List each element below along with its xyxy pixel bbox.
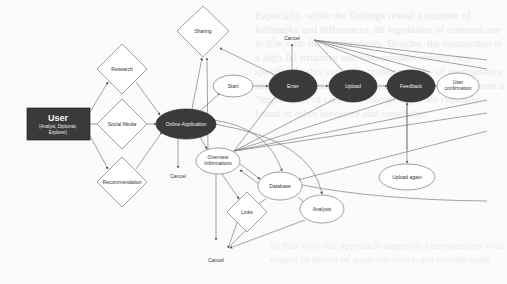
online-application-label: Online-Application	[166, 121, 207, 127]
process-database[interactable]: Database	[258, 172, 302, 200]
decision-links[interactable]: Links	[227, 192, 267, 232]
process-upload[interactable]: Upload	[329, 70, 377, 102]
cancel-mid-label: Cancel	[170, 173, 186, 179]
process-upload-again[interactable]: Upload again	[379, 164, 435, 190]
process-feedback[interactable]: Feedback	[387, 70, 435, 102]
links-label: Links	[241, 209, 253, 215]
user-subtitle-1: (Analyst, Diplomat,	[39, 124, 77, 129]
user-subtitle-2: Explorer)	[49, 130, 68, 135]
enter-label: Enter	[287, 83, 299, 89]
cancel-bottom-label: Cancel	[208, 257, 224, 263]
analysis-label: Analysis	[313, 206, 332, 212]
user-title: User	[48, 113, 69, 123]
upload-label: Upload	[345, 83, 361, 89]
decision-sharing[interactable]: Sharing	[177, 6, 229, 57]
overview-label-2: Informations	[204, 160, 232, 166]
sharing-label: Sharing	[194, 28, 211, 34]
process-online-application[interactable]: Online-Application	[156, 109, 216, 139]
process-user-confirmation[interactable]: User confirmation	[437, 73, 479, 99]
feedback-label: Feedback	[400, 83, 422, 89]
start-label: Start	[228, 83, 239, 89]
terminal-cancel-bottom[interactable]: Cancel	[208, 257, 224, 263]
process-start[interactable]: Start	[213, 75, 253, 97]
terminal-cancel-mid[interactable]: Cancel	[170, 173, 186, 179]
research-label: Research	[111, 66, 133, 72]
recommendation-label: Recommendation	[102, 179, 141, 185]
process-analysis[interactable]: Analysis	[300, 195, 344, 223]
flow-diagram: User (Analyst, Diplomat, Explorer) Resea…	[0, 0, 507, 284]
upload-again-label: Upload again	[392, 174, 422, 180]
process-enter[interactable]: Enter	[269, 70, 317, 102]
process-overview-informations[interactable]: Overview Informations	[196, 148, 240, 174]
social-media-label: Social Media	[108, 121, 137, 127]
decision-social-media[interactable]: Social Media	[97, 99, 147, 149]
cancel-top-label: Cancel	[284, 35, 300, 41]
database-label: Database	[269, 183, 291, 189]
user-node[interactable]: User (Analyst, Diplomat, Explorer)	[27, 108, 90, 140]
user-confirmation-label-2: confirmation	[444, 85, 471, 91]
